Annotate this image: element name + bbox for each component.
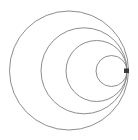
figure-svg xyxy=(0,0,138,140)
figure-background xyxy=(0,0,138,140)
tangency-point-marker xyxy=(124,69,129,74)
tangent-circles-figure xyxy=(0,0,138,140)
